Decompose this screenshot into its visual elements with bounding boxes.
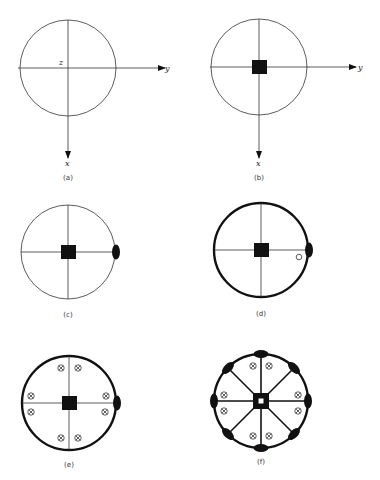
x-axis-label: x	[256, 159, 261, 168]
panel-b: y x (b)	[210, 19, 363, 182]
panel-label-f: (f)	[257, 458, 265, 466]
panel-c: (c)	[21, 205, 120, 319]
panel-e: (e)	[22, 356, 121, 469]
panel-f: (f)	[210, 350, 312, 466]
panel-label-d: (d)	[256, 310, 266, 318]
core-square	[61, 245, 76, 259]
core-square	[252, 60, 267, 74]
open-circle	[296, 254, 302, 260]
panel-label-c: (c)	[63, 311, 73, 319]
rim-node	[113, 396, 121, 411]
y-axis-label: y	[357, 63, 363, 72]
y-axis-label: y	[164, 64, 170, 73]
core-square	[254, 243, 269, 257]
panel-label-b: (b)	[254, 174, 264, 182]
rim-node	[305, 243, 313, 258]
core-square	[62, 396, 77, 410]
panel-label-e: (e)	[64, 461, 74, 469]
panel-d: (d)	[214, 203, 313, 318]
panel-label-a: (a)	[63, 174, 73, 182]
z-axis-label: z	[58, 58, 64, 67]
diagram-canvas: z y x (a) y x (b) (c) (d)	[0, 0, 380, 480]
rim-node	[112, 245, 120, 260]
x-axis-label: x	[65, 159, 70, 168]
core-hole	[259, 399, 264, 404]
panel-a: z y x (a)	[18, 20, 170, 182]
